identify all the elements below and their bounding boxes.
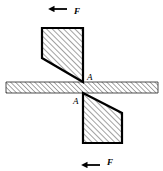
force-label-bottom: F — [106, 157, 113, 167]
force-label-top: F — [73, 6, 80, 16]
shear-diagram-svg: F F A A — [0, 0, 163, 171]
lower-punch-block-shape — [83, 93, 122, 143]
section-label-upper: A — [86, 72, 93, 82]
upper-punch-block-shape — [42, 28, 83, 82]
upper-punch-block — [42, 28, 83, 82]
shear-diagram-figure: F F A A — [0, 0, 163, 171]
section-label-lower: A — [72, 96, 79, 106]
lower-punch-block — [83, 93, 122, 143]
